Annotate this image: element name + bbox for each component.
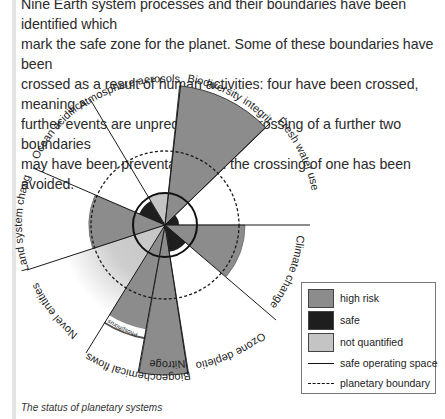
figure-caption: The status of planetary systems: [21, 402, 162, 413]
label-land-system-change: Land system change: [0, 0, 33, 273]
label-novel-entities: Novel entities: [28, 281, 79, 342]
safe-swatch: [308, 311, 334, 330]
legend-item-safe-operating-space: safe operating space: [308, 354, 437, 372]
legend-item-not-quantified: not quantified: [308, 333, 403, 351]
legend: high risk safe not quantified safe opera…: [301, 282, 436, 394]
legend-item-planetary-boundary: planetary boundary: [308, 374, 430, 392]
label-atmosphere-aerosols: Atmosphere aerosols: [76, 72, 181, 111]
label-fresh-water-use: Fresh water use: [275, 114, 321, 191]
not-quantified-swatch: [308, 333, 334, 352]
high-risk-swatch: [308, 289, 334, 308]
sector-climate-change: [165, 225, 245, 276]
label-ocean-acidification: Ocean acidification: [0, 0, 89, 161]
solid-line-icon: [308, 363, 334, 364]
dashed-line-icon: [308, 383, 334, 384]
legend-item-high-risk: high risk: [308, 289, 379, 307]
legend-item-safe: safe: [308, 311, 360, 329]
